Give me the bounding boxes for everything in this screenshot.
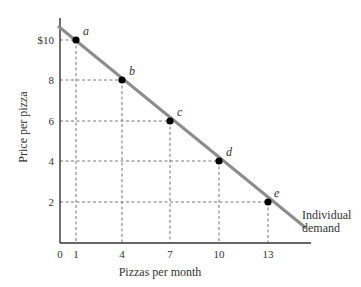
chart-container: a b c d e $10 8 6 4 2 0 1 4 7 10 13 Pizz… bbox=[0, 0, 361, 287]
x-tick-1: 1 bbox=[73, 248, 79, 260]
point-c bbox=[166, 117, 173, 124]
x-axis-label: Pizzas per month bbox=[119, 265, 202, 279]
point-label-c: c bbox=[177, 105, 183, 119]
point-label-a: a bbox=[83, 24, 89, 38]
x-tick-0: 0 bbox=[57, 248, 63, 260]
point-e bbox=[264, 198, 271, 205]
x-tick-13: 13 bbox=[263, 248, 275, 260]
x-tick-7: 7 bbox=[167, 248, 173, 260]
demand-curve bbox=[58, 26, 306, 228]
point-d bbox=[215, 157, 222, 164]
y-tick-10: $10 bbox=[38, 34, 55, 46]
point-label-d: d bbox=[226, 145, 233, 159]
curve-label-line2: demand bbox=[302, 221, 340, 235]
x-tick-4: 4 bbox=[119, 248, 125, 260]
demand-chart: a b c d e $10 8 6 4 2 0 1 4 7 10 13 Pizz… bbox=[0, 0, 361, 287]
guide-lines bbox=[60, 40, 268, 243]
point-label-b: b bbox=[129, 64, 135, 78]
y-tick-2: 2 bbox=[49, 196, 55, 208]
point-a bbox=[72, 36, 79, 43]
y-tick-4: 4 bbox=[49, 155, 55, 167]
point-label-e: e bbox=[274, 186, 280, 200]
y-tick-8: 8 bbox=[49, 74, 55, 86]
curve-label-line1: Individual bbox=[302, 208, 352, 222]
y-axis-label: Price per pizza bbox=[16, 91, 30, 163]
point-b bbox=[118, 76, 125, 83]
x-tick-10: 10 bbox=[214, 248, 226, 260]
y-tick-6: 6 bbox=[49, 115, 55, 127]
